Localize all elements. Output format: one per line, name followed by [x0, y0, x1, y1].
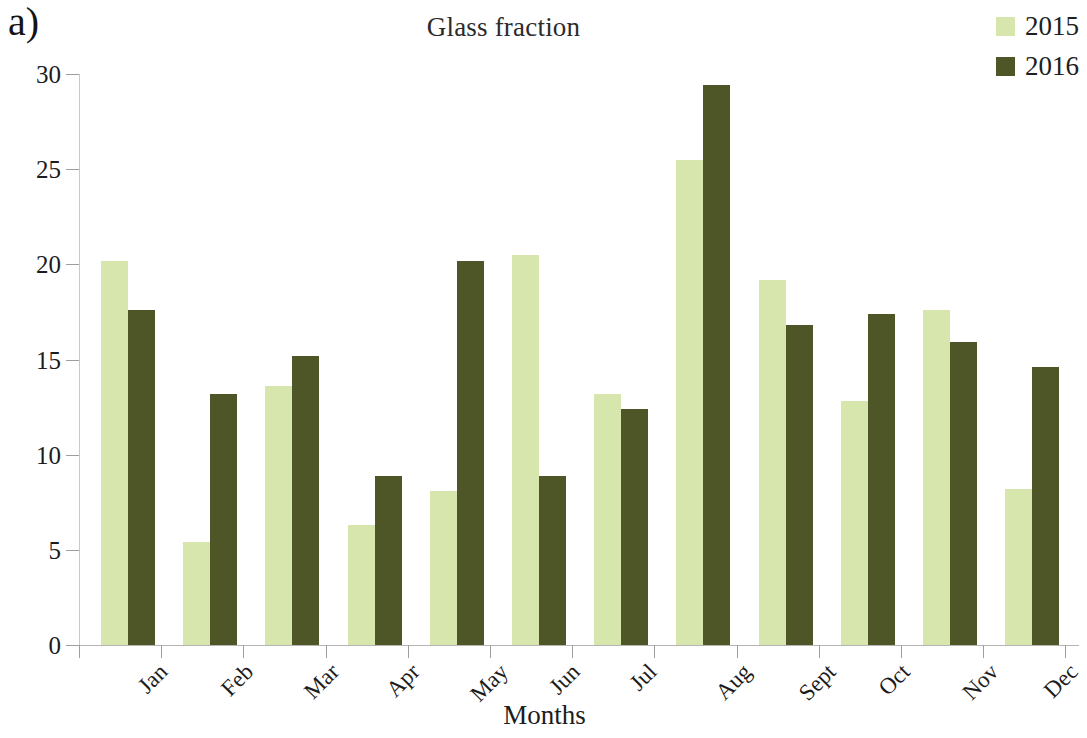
y-axis-tick	[66, 360, 79, 361]
chart-title-text: Glass fraction	[427, 12, 581, 43]
x-tick-label-apr: Apr	[381, 659, 425, 703]
y-axis-tick	[66, 264, 79, 265]
x-axis-tick	[901, 645, 902, 658]
x-tick-label-jun: Jun	[544, 659, 585, 700]
bar-jun-2016	[539, 476, 566, 645]
bar-apr-2016	[375, 476, 402, 645]
bar-may-2016	[457, 261, 484, 645]
bar-jun-2015	[512, 255, 539, 645]
bar-nov-2016	[950, 342, 977, 645]
x-tick-label-aug: Aug	[711, 659, 757, 705]
x-axis-title: Months	[0, 700, 1087, 731]
x-axis-tick	[79, 645, 80, 658]
y-axis-tick	[66, 74, 79, 75]
x-tick-label-dec: Dec	[1039, 659, 1084, 704]
bar-jul-2016	[621, 409, 648, 645]
legend-swatch-2016	[996, 57, 1015, 76]
bar-oct-2016	[868, 314, 895, 645]
y-axis-tick-label: 30	[13, 62, 61, 87]
legend-item-2015: 2015	[996, 6, 1079, 46]
y-axis-tick-label: 20	[13, 252, 61, 277]
y-axis-tick-label: 15	[13, 347, 61, 372]
bar-dec-2015	[1005, 489, 1032, 645]
x-tick-label-feb: Feb	[216, 659, 259, 702]
x-axis-tick	[819, 645, 820, 658]
y-axis-tick	[66, 550, 79, 551]
legend-swatch-2015	[996, 17, 1015, 36]
x-axis-line	[79, 645, 1079, 646]
y-axis-tick	[66, 169, 79, 170]
y-axis-tick-label: 10	[13, 442, 61, 467]
x-axis-title-text: Months	[503, 700, 586, 731]
y-axis-line	[79, 74, 80, 645]
x-axis-tick	[161, 645, 162, 658]
x-tick-label-jul: Jul	[625, 659, 662, 696]
chart-title: Glass fraction	[0, 12, 1087, 43]
bar-mar-2016	[292, 356, 319, 645]
x-axis-tick	[326, 645, 327, 658]
bar-sept-2015	[759, 280, 786, 645]
y-axis-tick-label: 0	[13, 633, 61, 658]
x-axis-tick	[654, 645, 655, 658]
bar-sept-2016	[786, 325, 813, 645]
legend-label-2015: 2015	[1025, 13, 1079, 40]
x-axis-tick	[490, 645, 491, 658]
bar-apr-2015	[348, 525, 375, 645]
bar-oct-2015	[841, 401, 868, 645]
x-tick-label-jan: Jan	[133, 659, 173, 699]
bar-aug-2016	[703, 85, 730, 645]
bar-mar-2015	[265, 386, 292, 645]
x-tick-label-mar: Mar	[300, 659, 345, 704]
bar-jan-2016	[128, 310, 155, 645]
plot-area: 051015202530 JanFebMarAprMayJunJulAugSep…	[79, 74, 1079, 645]
x-axis-tick	[1065, 645, 1066, 658]
x-axis-tick	[243, 645, 244, 658]
x-axis-tick	[737, 645, 738, 658]
y-axis-tick	[66, 455, 79, 456]
bar-may-2015	[430, 491, 457, 645]
x-tick-label-oct: Oct	[874, 659, 916, 701]
bar-feb-2016	[210, 394, 237, 645]
y-axis-tick	[66, 645, 79, 646]
bar-nov-2015	[923, 310, 950, 645]
bar-dec-2016	[1032, 367, 1059, 645]
bar-aug-2015	[676, 160, 703, 645]
y-axis-tick-label: 25	[13, 157, 61, 182]
x-axis-tick	[408, 645, 409, 658]
x-axis-tick	[572, 645, 573, 658]
bar-feb-2015	[183, 542, 210, 645]
x-tick-label-nov: Nov	[958, 659, 1004, 705]
bar-jul-2015	[594, 394, 621, 645]
bar-jan-2015	[101, 261, 128, 645]
y-axis-tick-label: 5	[13, 537, 61, 562]
x-axis-tick	[983, 645, 984, 658]
